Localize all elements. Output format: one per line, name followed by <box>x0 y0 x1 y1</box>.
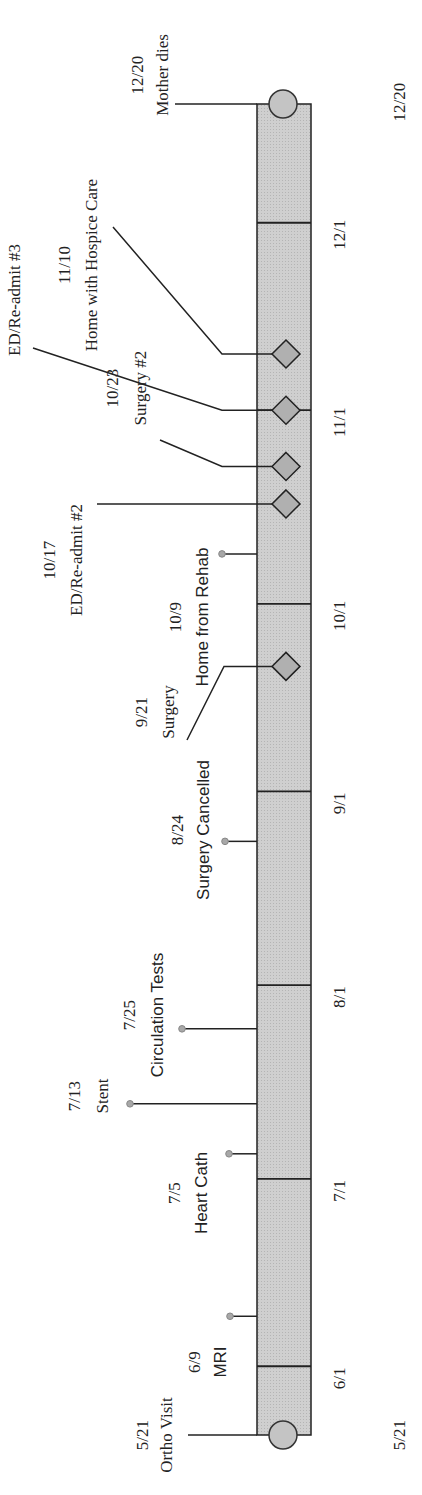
endpoint-circle-icon <box>269 1421 297 1449</box>
timeline-event <box>179 1026 257 1033</box>
event-date: 7/5 <box>165 1182 184 1204</box>
event-label: Surgery #2 <box>131 351 150 426</box>
event-label: Surgery <box>159 685 178 739</box>
event-date: 10/9 <box>166 602 185 632</box>
event-date: 6/9 <box>185 1351 204 1373</box>
event-dot-icon <box>222 838 229 845</box>
timeline-event <box>175 90 297 118</box>
event-dot-icon <box>127 1101 134 1108</box>
timeline-diagram: 6/17/18/19/110/111/112/1 5/2112/205/21Or… <box>0 0 422 1495</box>
event-connector <box>160 440 272 466</box>
month-tick-label: 9/1 <box>330 793 349 815</box>
timeline-event <box>222 838 257 845</box>
event-label: Home from Rehab <box>193 548 212 687</box>
event-label: Circulation Tests <box>148 953 167 1077</box>
event-label: Home with Hospice Care <box>82 179 101 351</box>
event-label: MRI <box>211 1346 230 1377</box>
timeline-event <box>188 1421 297 1449</box>
event-date: 10/17 <box>40 540 59 579</box>
endpoint-circle-icon <box>269 90 297 118</box>
event-dot-icon <box>227 1313 234 1320</box>
event-date: 12/20 <box>128 56 147 95</box>
event-dot-icon <box>219 551 226 558</box>
event-date: 8/24 <box>168 814 187 845</box>
event-date: 7/25 <box>120 1000 139 1030</box>
event-date: 9/21 <box>132 697 151 727</box>
event-dot-icon <box>179 1026 186 1033</box>
timeline-bar <box>257 104 311 1435</box>
event-label: Stent <box>93 1078 112 1113</box>
event-label: Ortho Visit <box>157 1397 176 1473</box>
event-connector <box>113 227 272 354</box>
end-date-label: 12/20 <box>390 83 409 122</box>
event-date: 11/10 <box>55 246 74 284</box>
timeline-event <box>127 1101 257 1108</box>
timeline-event <box>227 1313 257 1320</box>
event-label: Surgery Cancelled <box>194 760 213 900</box>
month-tick-label: 11/1 <box>330 407 349 437</box>
event-date: 5/21 <box>133 1420 152 1450</box>
month-tick-label: 10/1 <box>330 601 349 631</box>
start-date-label: 5/21 <box>390 1420 409 1450</box>
event-label: ED/Re-admit #2 <box>67 504 86 616</box>
event-date: 10/23 <box>103 369 122 408</box>
timeline-event <box>226 1151 257 1158</box>
month-tick-label: 6/1 <box>330 1367 349 1389</box>
month-tick-label: 8/1 <box>330 986 349 1008</box>
event-label: Heart Cath <box>192 1152 211 1234</box>
timeline-event <box>219 551 257 558</box>
event-label: ED/Re-admit #3 <box>5 244 24 356</box>
month-tick-label: 12/1 <box>330 220 349 250</box>
month-tick-label: 7/1 <box>330 1180 349 1202</box>
event-date: 7/13 <box>65 1081 84 1111</box>
event-dot-icon <box>226 1151 233 1158</box>
event-connector <box>33 348 272 410</box>
event-label: Mother dies <box>153 34 172 116</box>
